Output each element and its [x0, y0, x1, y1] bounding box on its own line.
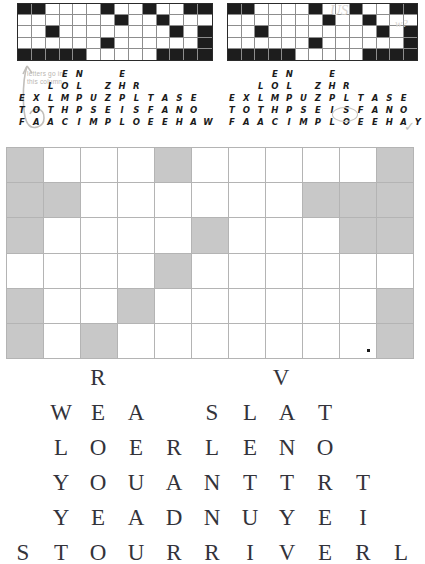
crossword-cell-empty[interactable]: [73, 4, 87, 15]
crossword-cell-empty[interactable]: [296, 15, 310, 26]
crossword-cell-empty[interactable]: [143, 49, 157, 60]
shaded-cell-empty[interactable]: [44, 254, 81, 289]
shaded-cell-empty[interactable]: [266, 183, 303, 218]
crossword-cell-empty[interactable]: [336, 26, 350, 37]
crossword-cell-empty[interactable]: [157, 4, 171, 15]
crossword-cell-empty[interactable]: [242, 38, 256, 49]
crossword-cell-filled[interactable]: [170, 26, 184, 37]
shaded-cell-empty[interactable]: [81, 183, 118, 218]
shaded-cell-empty[interactable]: [229, 183, 266, 218]
crossword-cell-filled[interactable]: [18, 4, 32, 15]
crossword-cell-empty[interactable]: [73, 15, 87, 26]
crossword-cell-empty[interactable]: [323, 26, 337, 37]
crossword-cell-filled[interactable]: [198, 26, 212, 37]
crossword-cell-empty[interactable]: [269, 15, 283, 26]
crossword-cell-empty[interactable]: [323, 38, 337, 49]
crossword-cell-filled[interactable]: [101, 4, 115, 15]
shaded-cell-empty[interactable]: [229, 218, 266, 253]
crossword-cell-empty[interactable]: [115, 26, 129, 37]
shaded-cell-empty[interactable]: [44, 218, 81, 253]
shaded-cell-empty[interactable]: [340, 148, 377, 183]
shaded-cell-empty[interactable]: [118, 254, 155, 289]
shaded-cell-empty[interactable]: [377, 254, 414, 289]
crossword-cell-filled[interactable]: [282, 49, 296, 60]
crossword-cell-empty[interactable]: [228, 38, 242, 49]
shaded-cell-empty[interactable]: [266, 324, 303, 359]
crossword-cell-empty[interactable]: [129, 26, 143, 37]
crossword-cell-filled[interactable]: [198, 38, 212, 49]
crossword-cell-empty[interactable]: [115, 49, 129, 60]
shaded-cell-empty[interactable]: [266, 218, 303, 253]
crossword-cell-empty[interactable]: [377, 4, 391, 15]
crossword-cell-filled[interactable]: [157, 49, 171, 60]
crossword-cell-filled[interactable]: [115, 15, 129, 26]
crossword-cell-empty[interactable]: [350, 38, 364, 49]
crossword-cell-empty[interactable]: [170, 38, 184, 49]
crossword-cell-filled[interactable]: [198, 4, 212, 15]
shaded-cell-empty[interactable]: [340, 324, 377, 359]
shaded-cell-empty[interactable]: [192, 289, 229, 324]
crossword-cell-filled[interactable]: [390, 49, 404, 60]
shaded-cell-empty[interactable]: [44, 148, 81, 183]
crossword-cell-empty[interactable]: [143, 15, 157, 26]
crossword-cell-empty[interactable]: [350, 26, 364, 37]
shaded-cell-empty[interactable]: [229, 324, 266, 359]
crossword-cell-empty[interactable]: [184, 26, 198, 37]
crossword-cell-empty[interactable]: [115, 4, 129, 15]
shaded-cell-filled[interactable]: [377, 324, 414, 359]
crossword-cell-empty[interactable]: [87, 4, 101, 15]
crossword-cell-empty[interactable]: [242, 15, 256, 26]
shaded-cell-filled[interactable]: [340, 218, 377, 253]
crossword-cell-empty[interactable]: [170, 4, 184, 15]
crossword-cell-filled[interactable]: [73, 49, 87, 60]
shaded-grid[interactable]: [6, 147, 414, 359]
shaded-cell-empty[interactable]: [81, 289, 118, 324]
shaded-cell-empty[interactable]: [192, 324, 229, 359]
crossword-cell-empty[interactable]: [184, 15, 198, 26]
shaded-cell-empty[interactable]: [192, 148, 229, 183]
crossword-cell-empty[interactable]: [336, 38, 350, 49]
crossword-cell-filled[interactable]: [390, 4, 404, 15]
crossword-cell-empty[interactable]: [129, 38, 143, 49]
crossword-cell-empty[interactable]: [32, 15, 46, 26]
shaded-cell-empty[interactable]: [303, 324, 340, 359]
crossword-cell-filled[interactable]: [309, 4, 323, 15]
crossword-cell-empty[interactable]: [296, 4, 310, 15]
crossword-cell-filled[interactable]: [228, 49, 242, 60]
shaded-cell-empty[interactable]: [155, 324, 192, 359]
crossword-cell-empty[interactable]: [269, 4, 283, 15]
shaded-cell-filled[interactable]: [7, 148, 44, 183]
shaded-cell-empty[interactable]: [192, 254, 229, 289]
crossword-cell-empty[interactable]: [60, 15, 74, 26]
shaded-cell-empty[interactable]: [303, 289, 340, 324]
shaded-cell-empty[interactable]: [192, 183, 229, 218]
shaded-cell-filled[interactable]: [118, 289, 155, 324]
crossword-cell-empty[interactable]: [377, 38, 391, 49]
crossword-cell-empty[interactable]: [18, 15, 32, 26]
crossword-cell-filled[interactable]: [143, 4, 157, 15]
shaded-cell-empty[interactable]: [303, 254, 340, 289]
crossword-cell-empty[interactable]: [129, 49, 143, 60]
crossword-cell-empty[interactable]: [363, 38, 377, 49]
shaded-cell-empty[interactable]: [340, 254, 377, 289]
crossword-cell-empty[interactable]: [309, 15, 323, 26]
crossword-grid-right[interactable]: [227, 3, 418, 61]
shaded-cell-filled[interactable]: [377, 183, 414, 218]
crossword-cell-filled[interactable]: [46, 26, 60, 37]
crossword-cell-empty[interactable]: [129, 4, 143, 15]
shaded-cell-empty[interactable]: [155, 183, 192, 218]
crossword-cell-empty[interactable]: [282, 4, 296, 15]
crossword-cell-empty[interactable]: [32, 26, 46, 37]
crossword-cell-empty[interactable]: [350, 49, 364, 60]
shaded-cell-filled[interactable]: [81, 324, 118, 359]
crossword-cell-empty[interactable]: [269, 26, 283, 37]
crossword-cell-empty[interactable]: [32, 38, 46, 49]
crossword-cell-empty[interactable]: [228, 26, 242, 37]
crossword-cell-empty[interactable]: [390, 38, 404, 49]
shaded-cell-empty[interactable]: [44, 324, 81, 359]
crossword-cell-empty[interactable]: [157, 38, 171, 49]
crossword-cell-filled[interactable]: [255, 26, 269, 37]
shaded-cell-filled[interactable]: [155, 148, 192, 183]
crossword-cell-empty[interactable]: [60, 4, 74, 15]
crossword-cell-empty[interactable]: [363, 26, 377, 37]
